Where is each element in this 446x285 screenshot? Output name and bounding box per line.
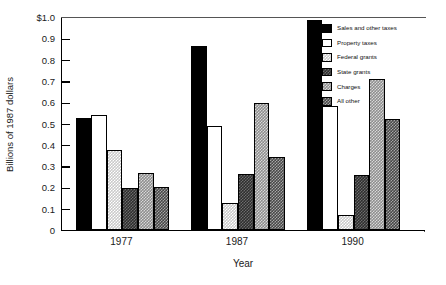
- legend-item-label: All other: [337, 98, 360, 104]
- bar: [322, 106, 338, 230]
- legend-item-label: Charges: [337, 84, 360, 90]
- y-axis-tickmark: [62, 209, 70, 210]
- legend-swatch-icon: [322, 97, 332, 106]
- y-axis-tick-label: 0.6: [42, 97, 55, 109]
- legend-item-label: Sales and other taxes: [337, 25, 397, 31]
- legend-item-label: State grants: [337, 69, 370, 75]
- x-axis-group-label: 1990: [306, 236, 400, 250]
- y-axis-tickmark: [62, 145, 70, 146]
- y-axis-tick-label: 0: [50, 225, 55, 237]
- bar: [91, 115, 107, 230]
- x-axis-title: Year: [61, 258, 425, 269]
- y-axis-tick-label: 0.8: [42, 55, 55, 67]
- bar: [269, 157, 285, 230]
- bar: [138, 173, 154, 231]
- y-axis-tick-label: 0.4: [42, 140, 55, 152]
- bar: [207, 126, 223, 230]
- y-axis-tick-label: 0.9: [42, 33, 55, 45]
- bar: [107, 150, 123, 230]
- bar: [238, 174, 254, 230]
- legend-item: State grants: [322, 65, 420, 80]
- legend-swatch-icon: [322, 39, 332, 48]
- bar-chart-figure: Billions of 1987 dollars 00.10.20.30.40.…: [0, 0, 446, 285]
- y-axis-tickmark: [62, 124, 70, 125]
- bar: [154, 187, 170, 230]
- bar: [385, 119, 401, 230]
- y-axis-tick-label: 0.5: [42, 119, 55, 131]
- x-axis-group-label: 1987: [190, 236, 284, 250]
- y-axis-tick-labels: 00.10.20.30.40.50.60.70.80.9$1.0: [18, 18, 60, 231]
- bar: [307, 20, 323, 230]
- bar: [76, 118, 92, 230]
- x-axis-title-text: Year: [233, 258, 253, 269]
- y-axis-title-text: Billions of 1987 dollars: [5, 77, 16, 172]
- legend-swatch-icon: [322, 68, 332, 77]
- legend-item-label: Federal grants: [337, 54, 377, 60]
- bar: [338, 215, 354, 230]
- bar: [122, 188, 138, 230]
- y-axis-tick-label: 0.3: [42, 161, 55, 173]
- legend-swatch-icon: [322, 53, 332, 62]
- legend-swatch-icon: [322, 24, 332, 33]
- y-axis-tick-label: 0.1: [42, 204, 55, 216]
- y-axis-tickmark: [62, 166, 70, 167]
- bar: [191, 46, 207, 230]
- y-axis-tickmark: [62, 39, 70, 40]
- legend-item-label: Property taxes: [337, 40, 377, 46]
- y-axis-title: Billions of 1987 dollars: [2, 18, 18, 231]
- y-axis-tickmark: [62, 188, 70, 189]
- y-axis-tickmark: [62, 81, 70, 82]
- y-axis-tick-label: 0.2: [42, 182, 55, 194]
- legend-item: Federal grants: [322, 50, 420, 65]
- y-axis-tick-label: $1.0: [37, 12, 56, 24]
- legend-swatch-icon: [322, 82, 332, 91]
- legend-item: Property taxes: [322, 36, 420, 51]
- bar: [369, 79, 385, 230]
- x-axis-group-label: 1977: [75, 236, 169, 250]
- y-axis-tickmark: [62, 103, 70, 104]
- y-axis-tickmark: [62, 60, 70, 61]
- bar: [222, 203, 238, 230]
- y-axis-tick-label: 0.7: [42, 76, 55, 88]
- bar: [354, 175, 370, 230]
- legend-item: Sales and other taxes: [322, 21, 420, 36]
- bar: [254, 103, 270, 230]
